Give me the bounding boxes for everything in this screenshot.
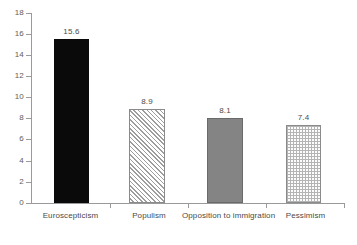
y-axis-line (31, 13, 32, 203)
bar-populism[interactable] (129, 109, 165, 203)
y-axis-tick (26, 97, 31, 98)
y-axis-tick-label: 18 (0, 9, 24, 17)
y-axis-tick-label: 2 (0, 178, 24, 186)
bar-value-label: 8.9 (129, 98, 165, 106)
y-axis-tick-label: 0 (0, 199, 24, 207)
x-axis-category-separator (110, 203, 111, 208)
y-axis-tick (26, 34, 31, 35)
y-axis-tick-label: 14 (0, 51, 24, 59)
y-axis-tick-label: 8 (0, 114, 24, 122)
x-axis-category-label: Populism (110, 211, 188, 220)
y-axis-tick-label: 12 (0, 72, 24, 80)
x-axis-category-label: Pessimism (266, 211, 345, 220)
y-axis-tick (26, 13, 31, 14)
x-axis-category-label: Euroscepticism (31, 211, 110, 220)
bar-euroscepticism[interactable] (54, 39, 89, 203)
x-axis-category-separator (188, 203, 189, 208)
y-axis-tick (26, 76, 31, 77)
x-axis-category-separator (266, 203, 267, 208)
bar-value-label: 7.4 (286, 114, 321, 122)
y-axis-tick (26, 55, 31, 56)
y-axis-tick (26, 139, 31, 140)
bar-value-label: 8.1 (207, 107, 243, 115)
y-axis-tick (26, 182, 31, 183)
x-axis-endcap (344, 203, 345, 208)
bar-chart: 18 16 14 12 10 8 6 4 2 0 15.6 8.9 8.1 7.… (0, 0, 357, 245)
y-axis-tick-label: 4 (0, 157, 24, 165)
bar-value-label: 15.6 (54, 28, 89, 36)
y-axis-tick (26, 118, 31, 119)
y-axis-tick (26, 161, 31, 162)
bar-opposition-to-immigration[interactable] (207, 118, 243, 203)
bar-pessimism[interactable] (286, 125, 321, 203)
y-axis-tick-label: 16 (0, 30, 24, 38)
y-axis-tick-label: 6 (0, 135, 24, 143)
x-axis-category-label: Opposition to immigration (182, 211, 272, 220)
y-axis-tick-label: 10 (0, 93, 24, 101)
